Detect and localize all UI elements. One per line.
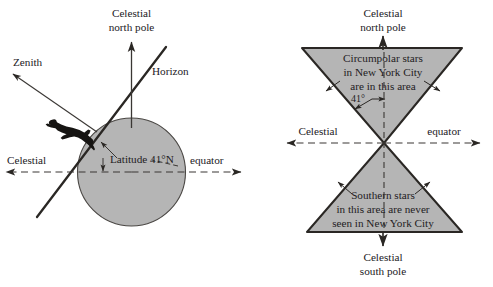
figure-svg: Celestial north pole Zenith Horizon Cele… bbox=[0, 0, 493, 287]
right-csp-label-line2: south pole bbox=[360, 265, 406, 277]
horizon-label: Horizon bbox=[152, 65, 189, 77]
latitude-label: Latitude 41°N bbox=[110, 153, 174, 165]
right-celestial-label: Celestial bbox=[298, 125, 337, 137]
lower-cone-text-line3: seen in New York City bbox=[332, 217, 434, 229]
lower-cone-text-line1: Southern stars bbox=[351, 189, 415, 201]
left-cnp-label-line1: Celestial bbox=[112, 7, 151, 19]
lower-cone-text-line2: in this area are never bbox=[336, 203, 429, 215]
upper-cone-text-line1: Circumpolar stars bbox=[343, 52, 423, 64]
left-equator-label: equator bbox=[190, 154, 224, 166]
right-equator-label: equator bbox=[427, 125, 461, 137]
right-cnp-label-line2: north pole bbox=[360, 21, 406, 33]
angle-label: 41° bbox=[351, 93, 365, 104]
left-panel-group: Celestial north pole Zenith Horizon Cele… bbox=[6, 7, 241, 226]
right-panel-group: Celestial north pole Circumpolar stars i… bbox=[287, 7, 480, 277]
left-celestial-label: Celestial bbox=[7, 154, 46, 166]
upper-cone-text-line3: are in this area bbox=[350, 80, 416, 92]
astronomy-figure: Celestial north pole Zenith Horizon Cele… bbox=[0, 0, 493, 287]
zenith-label: Zenith bbox=[13, 56, 43, 68]
right-cnp-label-line1: Celestial bbox=[363, 7, 402, 19]
right-csp-label-line1: Celestial bbox=[363, 251, 402, 263]
left-cnp-label-line2: north pole bbox=[109, 21, 155, 33]
upper-cone-text-line2: in New York City bbox=[344, 66, 423, 78]
